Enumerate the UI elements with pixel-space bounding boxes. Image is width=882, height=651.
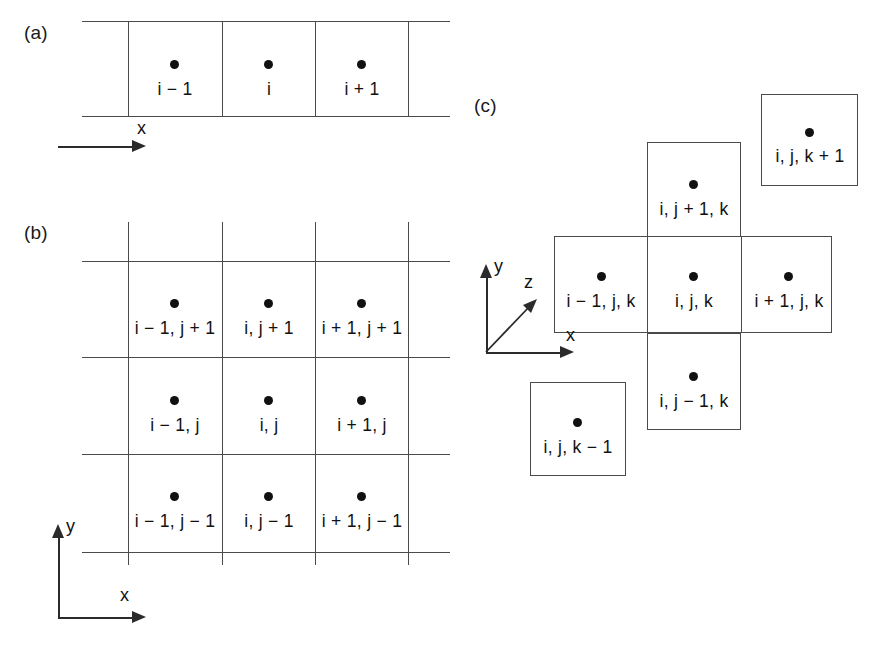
panel-label-b: (b)	[24, 222, 48, 244]
z-axis-arrow-icon	[480, 288, 550, 358]
cell-label: i, j − 1, k	[660, 391, 729, 412]
cell-label: i − 1, j, k	[567, 291, 636, 312]
panel-b-vline-3	[315, 222, 316, 565]
panel-b-hline-4	[82, 552, 450, 553]
grid-node	[357, 396, 366, 405]
grid-node	[597, 272, 606, 281]
cell-label: i, j + 1, k	[660, 199, 729, 220]
cell-label: i + 1, j + 1	[322, 318, 402, 339]
cell-label: i, j, k + 1	[776, 146, 845, 167]
figure-canvas: (a) i − 1 i i + 1 x (b) i − 1, j + 1 i, …	[0, 0, 882, 651]
cell-label: i, j + 1	[244, 318, 294, 339]
grid-node	[170, 299, 179, 308]
grid-node	[573, 418, 582, 427]
panel-a-divider-4	[408, 21, 409, 117]
axis-label-z: z	[524, 272, 533, 293]
panel-c-row-divider-2	[741, 236, 742, 333]
cell-box-j-plus-1	[647, 142, 741, 237]
grid-node	[805, 128, 814, 137]
cell-label: i, j − 1	[244, 511, 294, 532]
grid-node	[689, 180, 698, 189]
axis-label-x: x	[120, 585, 129, 606]
grid-node	[264, 492, 273, 501]
grid-node	[170, 396, 179, 405]
grid-node	[264, 396, 273, 405]
panel-c-row-divider-1	[647, 236, 648, 333]
cell-label: i + 1, j, k	[755, 291, 824, 312]
cell-box-k-plus-1	[761, 94, 858, 186]
cell-label: i − 1, j + 1	[135, 318, 215, 339]
axis-label-y: y	[66, 516, 75, 537]
grid-node	[170, 492, 179, 501]
cell-box-j-minus-1	[647, 333, 741, 430]
panel-b-vline-2	[222, 222, 223, 565]
cell-label: i, j	[260, 415, 279, 436]
panel-b-hline-2	[82, 357, 450, 358]
panel-label-a: (a)	[24, 22, 48, 44]
panel-b-hline-3	[82, 454, 450, 455]
cell-label: i, j, k	[675, 291, 713, 312]
y-axis-arrow-icon	[480, 264, 492, 278]
grid-node	[170, 60, 179, 69]
grid-node	[784, 272, 793, 281]
y-axis-arrow-icon	[52, 524, 64, 538]
panel-b-vline-4	[408, 222, 409, 565]
axis-label-x: x	[566, 325, 575, 346]
cell-label: i − 1	[157, 79, 192, 100]
x-axis-arrow-icon	[132, 140, 146, 152]
cell-label: i	[267, 79, 271, 100]
panel-b-y-axis-line	[58, 536, 60, 618]
grid-node	[357, 299, 366, 308]
axis-label-y: y	[494, 256, 503, 277]
grid-node	[689, 372, 698, 381]
x-axis-arrow-icon	[132, 611, 146, 623]
cell-label: i + 1, j − 1	[322, 511, 402, 532]
panel-b-hline-1	[82, 261, 450, 262]
cell-label: i + 1	[344, 79, 379, 100]
cell-box-k-minus-1	[530, 382, 626, 476]
panel-c-x-axis-line	[486, 352, 562, 354]
panel-a-top-edge	[82, 21, 450, 22]
axis-label-x: x	[137, 118, 146, 139]
panel-a-x-axis-line	[58, 146, 134, 148]
panel-c-z-axis	[480, 288, 550, 358]
panel-a-divider-3	[315, 21, 316, 117]
cell-label: i + 1, j	[337, 415, 387, 436]
panel-a-divider-1	[128, 21, 129, 117]
panel-label-c: (c)	[474, 95, 497, 117]
cell-label: i − 1, j	[150, 415, 200, 436]
grid-node	[357, 492, 366, 501]
x-axis-arrow-icon	[560, 346, 574, 358]
grid-node	[689, 272, 698, 281]
grid-node	[264, 299, 273, 308]
cell-label: i − 1, j − 1	[135, 511, 215, 532]
cell-box-middle-row	[554, 236, 832, 333]
panel-b-x-axis-line	[58, 617, 134, 619]
grid-node	[264, 60, 273, 69]
cell-label: i, j, k − 1	[544, 437, 613, 458]
grid-node	[357, 60, 366, 69]
panel-b-vline-1	[128, 222, 129, 565]
panel-a-divider-2	[222, 21, 223, 117]
